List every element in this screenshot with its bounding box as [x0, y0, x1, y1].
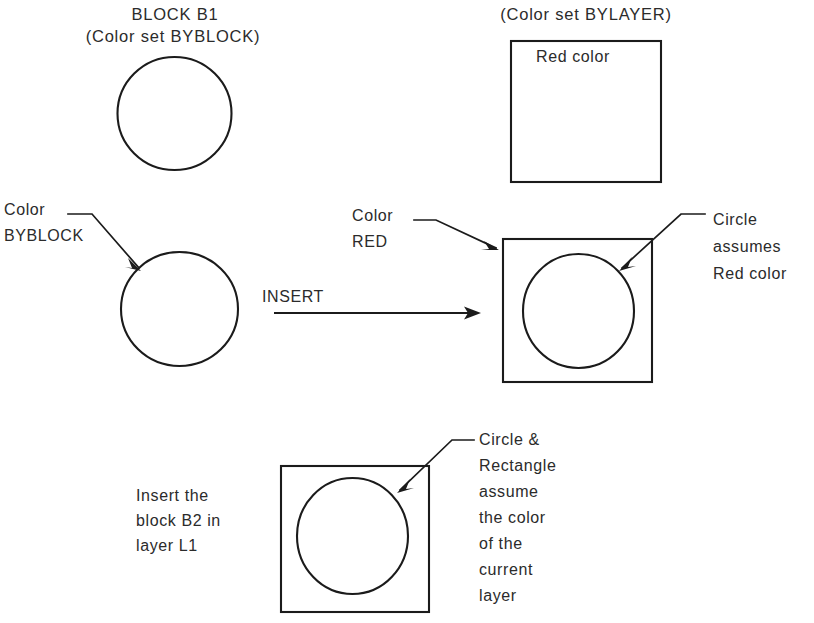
- circle-assumes-line1: Circle: [713, 211, 758, 228]
- block-color-inheritance-diagram: BLOCK B1 (Color set BYBLOCK) (Color set …: [0, 0, 814, 623]
- current-layer-line4: the color: [479, 509, 546, 526]
- red-leader-line: [414, 220, 496, 248]
- block-b1-circle: [118, 57, 232, 170]
- insert-note-line1: Insert the: [136, 487, 209, 504]
- circle-assumes-leader-line: [622, 214, 705, 268]
- red-callout-line2: RED: [352, 233, 388, 250]
- layer-l1-rectangle: [281, 466, 429, 612]
- insert-note-line3: layer L1: [136, 537, 198, 554]
- current-layer-line7: layer: [479, 587, 517, 604]
- insert-note-line2: block B2 in: [136, 512, 221, 529]
- current-layer-leader-arrowhead: [397, 479, 414, 493]
- diagram-canvas-container: BLOCK B1 (Color set BYBLOCK) (Color set …: [0, 0, 814, 623]
- current-layer-line6: current: [479, 561, 533, 578]
- current-layer-line1: Circle &: [479, 431, 540, 448]
- current-layer-line3: assume: [479, 483, 539, 500]
- current-layer-line2: Rectangle: [479, 457, 556, 474]
- bylayer-rectangle-label: Red color: [536, 48, 610, 65]
- top-left-title-line2: (Color set BYBLOCK): [86, 27, 261, 45]
- current-layer-line5: of the: [479, 535, 523, 552]
- layer-l1-circle: [297, 478, 408, 594]
- insert-operation-label: INSERT: [262, 288, 324, 305]
- top-left-title-line1: BLOCK B1: [131, 5, 218, 23]
- circle-assumes-line2: assumes: [713, 238, 781, 255]
- inserted-block-circle: [523, 254, 634, 368]
- top-right-title: (Color set BYLAYER): [500, 5, 672, 23]
- red-callout-line1: Color: [352, 207, 393, 224]
- circle-assumes-leader-arrowhead: [619, 257, 636, 271]
- circle-assumes-line3: Red color: [713, 265, 787, 282]
- byblock-circle: [121, 252, 238, 366]
- byblock-callout-line1: Color: [4, 201, 45, 218]
- byblock-callout-line2: BYBLOCK: [4, 227, 84, 244]
